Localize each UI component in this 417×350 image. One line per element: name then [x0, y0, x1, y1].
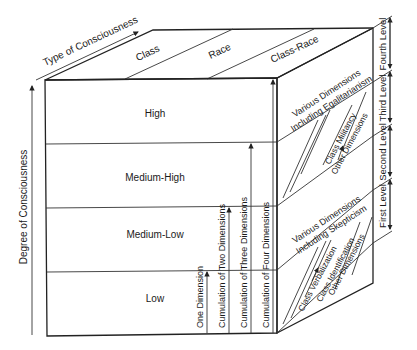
level-label-third: Third Level [377, 75, 388, 122]
level-label-second: Second Level [377, 123, 388, 181]
row-label-medium-low: Medium-Low [126, 229, 184, 240]
level-label-first: First Level [377, 184, 388, 228]
right-face: Various Dimensions Including Egalitarian… [277, 28, 374, 333]
degree-axis: Degree of Consciousness [18, 86, 32, 335]
level-label-fourth: Fourth Level [377, 18, 388, 71]
level-bracket: Fourth Level Third Level Second Level Fi… [373, 16, 392, 243]
row-label-high: High [145, 108, 166, 119]
type-axis: Type of Consciousness [36, 14, 139, 80]
degree-axis-label: Degree of Consciousness [18, 150, 29, 265]
arrow-label-one: One Dimension [195, 266, 205, 328]
row-label-medium-high: Medium-High [125, 172, 184, 183]
row-label-low: Low [146, 293, 165, 304]
arrow-label-four: Cumulation of Four Dimensions [261, 201, 271, 328]
arrow-label-two: Cumulation of Two Dimensions [217, 204, 227, 328]
column-label-class: Class [134, 43, 161, 64]
front-face: High Medium-High Medium-Low Low One Dime… [45, 78, 277, 336]
arrow-label-three: Cumulation of Three Dimensions [239, 197, 249, 328]
column-label-race: Race [207, 41, 233, 61]
consciousness-cube-diagram: Type of Consciousness Degree of Consciou… [0, 0, 417, 350]
